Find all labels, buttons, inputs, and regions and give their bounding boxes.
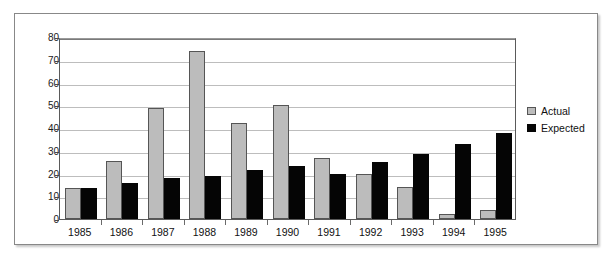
y-axis: 01020304050607080: [15, 38, 59, 220]
bar-actual-1985: [65, 188, 81, 219]
bar-expected-1986: [122, 183, 138, 219]
x-tick-label-1990: 1990: [268, 226, 308, 238]
bar-expected-1987: [164, 178, 180, 219]
bar-expected-1994: [455, 144, 471, 219]
gridline-80: [60, 39, 515, 40]
bar-expected-1989: [247, 170, 263, 219]
gridline-60: [60, 85, 515, 86]
x-tick-label-1986: 1986: [101, 226, 141, 238]
x-tick-mark-7: [350, 220, 351, 225]
plot-area: [59, 38, 516, 220]
x-tick-label-1989: 1989: [226, 226, 266, 238]
y-tick-label-10: 10: [25, 192, 59, 202]
legend-label: Actual: [541, 105, 570, 117]
bar-actual-1986: [106, 161, 122, 219]
x-tick-label-1992: 1992: [351, 226, 391, 238]
bar-actual-1995: [480, 210, 496, 219]
x-tick-label-1988: 1988: [184, 226, 224, 238]
y-tick-label-70: 70: [25, 56, 59, 66]
x-tick-label-1995: 1995: [475, 226, 515, 238]
x-tick-mark-10: [474, 220, 475, 225]
x-tick-mark-6: [308, 220, 309, 225]
x-tick-mark-1: [101, 220, 102, 225]
x-tick-label-1994: 1994: [434, 226, 474, 238]
chart-panel: 01020304050607080 1985198619871988198919…: [14, 13, 598, 245]
legend-item-expected: Expected: [527, 119, 597, 136]
bar-actual-1991: [314, 158, 330, 219]
screenshot-root: 01020304050607080 1985198619871988198919…: [0, 0, 614, 261]
bar-actual-1993: [397, 187, 413, 219]
legend-swatch-actual-icon: [527, 107, 536, 115]
x-tick-mark-4: [225, 220, 226, 225]
x-tick-mark-8: [391, 220, 392, 225]
bar-actual-1992: [356, 174, 372, 220]
y-tick-label-60: 60: [25, 79, 59, 89]
bar-expected-1991: [330, 174, 346, 220]
y-tick-mark-0: [55, 220, 59, 221]
x-tick-label-1991: 1991: [309, 226, 349, 238]
y-tick-label-20: 20: [25, 170, 59, 180]
bar-actual-1987: [148, 108, 164, 219]
x-tick-label-1985: 1985: [60, 226, 100, 238]
x-tick-label-1993: 1993: [392, 226, 432, 238]
bar-expected-1995: [496, 133, 512, 219]
y-tick-label-40: 40: [25, 124, 59, 134]
y-tick-label-50: 50: [25, 101, 59, 111]
y-tick-label-30: 30: [25, 147, 59, 157]
chart-legend: ActualExpected: [527, 102, 597, 136]
bar-chart: 01020304050607080 1985198619871988198919…: [15, 14, 599, 246]
bar-actual-1990: [273, 105, 289, 219]
bar-expected-1992: [372, 162, 388, 219]
x-tick-label-1987: 1987: [143, 226, 183, 238]
y-tick-label-0: 0: [25, 215, 59, 225]
bar-expected-1985: [81, 188, 97, 219]
bar-actual-1989: [231, 123, 247, 219]
legend-item-actual: Actual: [527, 102, 597, 119]
legend-swatch-expected-icon: [527, 124, 536, 132]
bar-expected-1993: [413, 154, 429, 219]
bar-actual-1988: [189, 51, 205, 219]
x-tick-mark-3: [184, 220, 185, 225]
bar-actual-1994: [439, 214, 455, 219]
x-tick-mark-9: [433, 220, 434, 225]
x-tick-mark-5: [267, 220, 268, 225]
legend-label: Expected: [541, 122, 585, 134]
x-tick-mark-2: [142, 220, 143, 225]
y-tick-label-80: 80: [25, 33, 59, 43]
bar-expected-1988: [205, 176, 221, 219]
bar-expected-1990: [289, 166, 305, 219]
gridline-70: [60, 62, 515, 63]
